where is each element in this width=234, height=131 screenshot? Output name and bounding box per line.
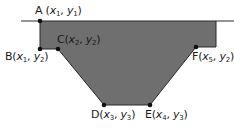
point-f-marker: [194, 45, 199, 50]
label-point-e: E(x4, y3): [145, 109, 188, 121]
label-point-f: F(x5, y2): [192, 51, 234, 63]
point-e-marker: [148, 103, 153, 108]
label-point-a: A (x1, y1): [35, 5, 82, 17]
label-point-d: D(x3, y3): [91, 109, 135, 121]
point-c-marker: [56, 47, 61, 52]
label-point-b: B(x1, y2): [5, 51, 48, 63]
point-d-marker: [102, 103, 107, 108]
label-point-c: C(x2, y2): [57, 34, 100, 46]
point-a-marker: [38, 19, 43, 24]
